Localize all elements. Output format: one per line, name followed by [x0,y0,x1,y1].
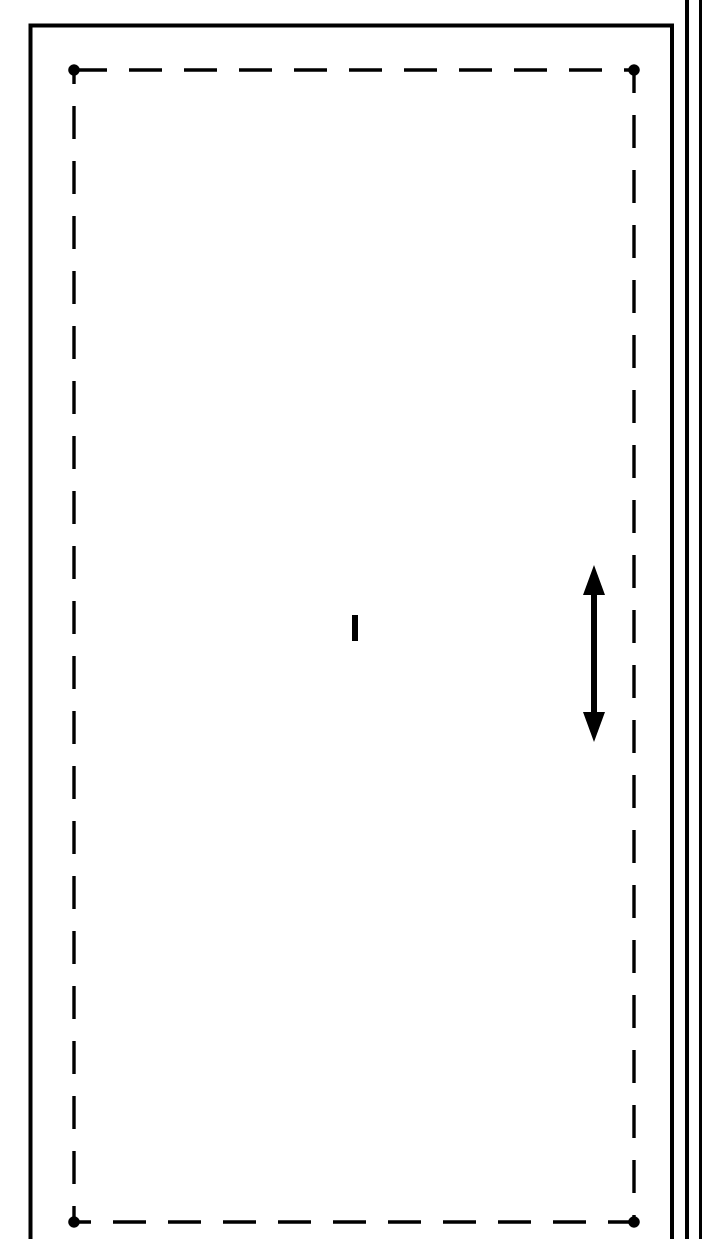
line-drawing-svg [0,0,702,1239]
corner-dot-top-left [68,64,80,76]
corner-dot-bottom-right [628,1216,640,1228]
center-tick-mark [352,615,358,641]
drawing-canvas [0,0,702,1239]
right-rule-inner [685,0,689,1239]
corner-dot-bottom-left [68,1216,80,1228]
corner-dot-top-right [628,64,640,76]
